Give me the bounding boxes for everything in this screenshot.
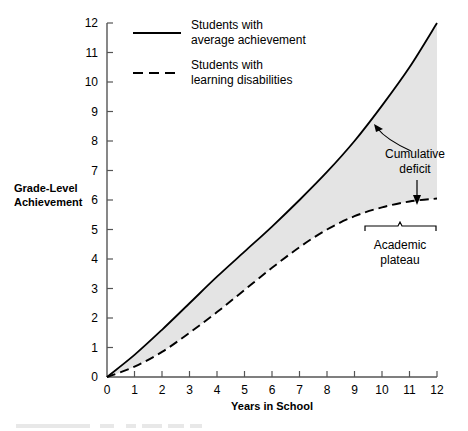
legend-label-disabilities-line2: learning disabilities: [191, 73, 292, 87]
y-tick-label: 8: [91, 134, 98, 148]
annotation-label-academic: Academic: [374, 238, 427, 252]
y-tick-label: 1: [91, 341, 98, 355]
annotation-academic-plateau: Academic plateau: [365, 222, 436, 267]
x-tick-label: 7: [296, 383, 303, 397]
x-tick-label: 9: [351, 383, 358, 397]
x-axis-title: Years in School: [231, 400, 313, 412]
x-axis-tick-labels: 0123456789101112: [104, 383, 444, 397]
y-tick-label: 11: [86, 46, 99, 60]
y-tick-label: 6: [91, 193, 98, 207]
x-tick-label: 2: [159, 383, 166, 397]
x-tick-label: 12: [430, 383, 444, 397]
y-axis-title-line2: Achievement: [14, 196, 83, 208]
annotation-label-cumulative: Cumulative: [385, 147, 445, 161]
legend-label-disabilities-line1: Students with: [191, 58, 263, 72]
y-tick-label: 2: [91, 311, 98, 325]
legend-label-average-line2: average achievement: [191, 33, 306, 47]
y-axis-tick-labels: 0123456789101112: [85, 16, 99, 384]
annotation-label-plateau: plateau: [380, 253, 419, 267]
annotation-label-deficit: deficit: [399, 162, 431, 176]
x-tick-label: 3: [186, 383, 193, 397]
x-tick-label: 5: [241, 383, 248, 397]
brace-academic-plateau: [365, 222, 436, 231]
y-tick-label: 0: [91, 370, 98, 384]
y-tick-label: 12: [85, 16, 99, 30]
legend: Students with average achievement Studen…: [133, 18, 306, 87]
x-tick-label: 10: [375, 383, 389, 397]
y-tick-label: 5: [91, 223, 98, 237]
legend-label-average-line1: Students with: [191, 18, 263, 32]
x-tick-label: 4: [214, 383, 221, 397]
y-tick-label: 7: [91, 164, 98, 178]
y-axis-title-line1: Grade-Level: [14, 182, 78, 194]
x-axis-ticks: [135, 371, 438, 377]
y-tick-label: 3: [91, 282, 98, 296]
y-tick-label: 9: [91, 105, 98, 119]
cropped-caption-fragment: [16, 424, 202, 428]
y-tick-label: 10: [85, 75, 99, 89]
x-tick-label: 6: [269, 383, 276, 397]
grade-level-achievement-chart: 0123456789101112 0123456789101112 Grade-…: [0, 0, 468, 431]
x-tick-label: 0: [104, 383, 111, 397]
x-tick-label: 11: [403, 383, 416, 397]
y-tick-label: 4: [91, 252, 98, 266]
x-tick-label: 1: [131, 383, 138, 397]
y-axis-ticks: [107, 23, 113, 348]
x-tick-label: 8: [324, 383, 331, 397]
